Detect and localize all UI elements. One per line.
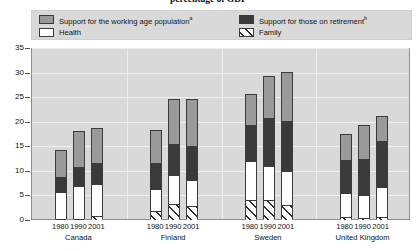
bar-sweden-2001 — [281, 72, 293, 219]
bar-segment-family — [282, 205, 292, 220]
bar-segment-support-for-the-working-age-population — [377, 117, 387, 142]
y-axis-tick-label: 10 — [4, 167, 24, 175]
bar-segment-support-for-those-on-retirement — [151, 163, 161, 189]
gridline — [32, 48, 409, 49]
segment-divider — [92, 216, 102, 217]
segment-divider — [282, 205, 292, 206]
segment-divider — [151, 163, 161, 164]
legend-item-retirement: Support for those on retirementb — [239, 14, 367, 25]
group-separator — [222, 49, 223, 219]
bar-finland-1990 — [168, 99, 180, 219]
bar-segment-support-for-those-on-retirement — [341, 160, 351, 193]
chart-legend: Support for the working age populationa … — [31, 10, 412, 40]
segment-divider — [341, 193, 351, 194]
segment-divider — [359, 159, 369, 160]
bar-segment-family — [92, 216, 102, 220]
gridline — [32, 171, 409, 172]
x-axis-year-label: 2001 — [176, 223, 206, 231]
gridline — [32, 122, 409, 123]
segment-divider — [246, 125, 256, 126]
bar-sweden-1980 — [245, 94, 257, 219]
group-separator — [316, 49, 317, 219]
segment-divider — [169, 175, 179, 176]
y-axis-tick-label: 25 — [4, 93, 24, 101]
bar-segment-health — [377, 187, 387, 217]
bar-segment-family — [151, 211, 161, 220]
bar-segment-support-for-those-on-retirement — [282, 121, 292, 172]
bar-segment-support-for-the-working-age-population — [187, 100, 197, 146]
bar-canada-1980 — [55, 150, 67, 219]
bar-sweden-1990 — [263, 76, 275, 219]
segment-divider — [187, 180, 197, 181]
bar-segment-family — [74, 219, 84, 220]
chart-title: percentage of GDP — [0, 0, 417, 4]
segment-divider — [377, 141, 387, 142]
legend-swatch-working-age-icon — [39, 15, 54, 24]
bar-segment-support-for-those-on-retirement — [264, 118, 274, 166]
bar-segment-support-for-those-on-retirement — [56, 177, 66, 193]
bar-canada-1990 — [73, 131, 85, 219]
bar-segment-support-for-the-working-age-population — [359, 126, 369, 158]
bar-segment-support-for-the-working-age-population — [341, 135, 351, 161]
segment-divider — [151, 189, 161, 190]
bar-segment-support-for-the-working-age-population — [282, 73, 292, 121]
chart-figure: percentage of GDP Support for the workin… — [0, 0, 417, 251]
x-axis-year-label: 2001 — [81, 223, 111, 231]
bar-segment-support-for-the-working-age-population — [92, 129, 102, 163]
segment-divider — [56, 177, 66, 178]
bar-segment-support-for-those-on-retirement — [92, 163, 102, 184]
y-axis-tick-mark — [25, 48, 30, 49]
segment-divider — [246, 200, 256, 201]
bar-segment-health — [246, 161, 256, 200]
y-axis-tick-label: 15 — [4, 142, 24, 150]
legend-item-family: Family — [239, 27, 281, 38]
gridline — [32, 195, 409, 196]
bar-segment-family — [377, 217, 387, 220]
plot-area — [31, 48, 410, 220]
y-axis-tick-label: 20 — [4, 118, 24, 126]
bar-segment-health — [56, 192, 66, 219]
x-axis-year-label: 2001 — [271, 223, 301, 231]
bar-finland-2001 — [186, 99, 198, 219]
segment-divider — [359, 218, 369, 219]
legend-item-working-age: Support for the working age populationa — [39, 14, 192, 25]
legend-item-health: Health — [39, 27, 81, 38]
bar-segment-health — [187, 180, 197, 206]
y-axis-tick-mark — [25, 195, 30, 196]
y-axis-tick-mark — [25, 171, 30, 172]
bar-segment-support-for-those-on-retirement — [377, 141, 387, 186]
segment-divider — [56, 192, 66, 193]
legend-label-health: Health — [59, 28, 81, 37]
legend-note-working-age: a — [189, 15, 192, 21]
segment-divider — [74, 219, 84, 220]
bar-united-kingdom-1980 — [340, 134, 352, 220]
segment-divider — [264, 200, 274, 201]
segment-divider — [74, 167, 84, 168]
y-axis-tick-label: 0 — [4, 216, 24, 224]
segment-divider — [341, 160, 351, 161]
bar-canada-2001 — [91, 128, 103, 219]
bar-segment-support-for-the-working-age-population — [74, 132, 84, 168]
bar-segment-support-for-the-working-age-population — [151, 131, 161, 163]
segment-divider — [377, 217, 387, 218]
legend-label-retirement: Support for those on retirement — [259, 16, 364, 25]
legend-swatch-family-icon — [239, 28, 254, 37]
bar-segment-family — [169, 204, 179, 220]
y-axis: 05101520253035 — [0, 40, 31, 228]
y-axis-tick-label: 30 — [4, 69, 24, 77]
bar-segment-family — [187, 206, 197, 220]
gridline — [32, 97, 409, 98]
y-axis-tick-label: 5 — [4, 191, 24, 199]
y-axis-tick-mark — [25, 73, 30, 74]
segment-divider — [169, 204, 179, 205]
x-axis-year-label: 2001 — [366, 223, 396, 231]
legend-swatch-retirement-icon — [239, 15, 254, 24]
x-axis-country-label: Sweden — [221, 234, 316, 242]
segment-divider — [264, 166, 274, 167]
bar-united-kingdom-2001 — [376, 116, 388, 219]
group-separator — [127, 49, 128, 219]
y-axis-tick-mark — [25, 220, 30, 221]
segment-divider — [341, 217, 351, 218]
bar-segment-health — [341, 193, 351, 217]
bar-segment-support-for-those-on-retirement — [169, 144, 179, 175]
